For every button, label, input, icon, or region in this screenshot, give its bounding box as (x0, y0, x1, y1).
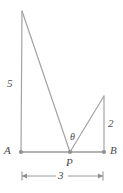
label-point-p: P (66, 157, 73, 168)
segment-apex-to-p (22, 11, 70, 152)
geometry-figure: A B P 5 2 3 θ (0, 0, 123, 193)
label-angle-theta: θ (70, 132, 75, 142)
point-p-dot (68, 150, 72, 154)
label-left-side-length: 5 (7, 78, 13, 89)
point-b-dot (102, 150, 106, 154)
label-base-length: 3 (58, 170, 64, 181)
label-point-b: B (110, 145, 117, 156)
segment-p-to-peak (70, 96, 104, 152)
label-right-side-length: 2 (108, 118, 114, 129)
segment-left-vertical (21, 11, 22, 152)
label-point-a: A (4, 145, 11, 156)
point-a-dot (19, 150, 23, 154)
figure-canvas (0, 0, 123, 193)
